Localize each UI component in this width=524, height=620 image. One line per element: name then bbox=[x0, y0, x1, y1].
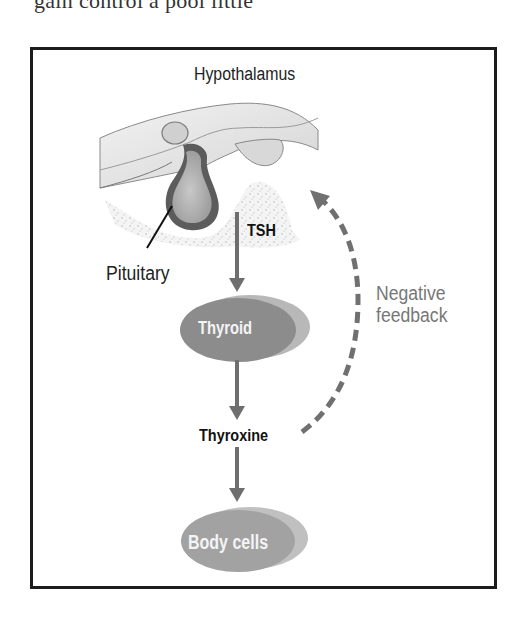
thyroid-to-thyroxine-arrow bbox=[229, 360, 245, 420]
body-cells-label: Body cells bbox=[188, 531, 268, 554]
thyroxine-to-body-cells-arrow bbox=[229, 447, 245, 502]
hypothalamus-label: Hypothalamus bbox=[194, 64, 295, 85]
negative-feedback-line1: Negative bbox=[376, 282, 447, 304]
tsh-label: TSH bbox=[247, 221, 276, 241]
pituitary-label: Pituitary bbox=[106, 262, 170, 285]
negative-feedback-arrow bbox=[302, 190, 358, 432]
negative-feedback-line2: feedback bbox=[376, 304, 447, 326]
thyroid-label: Thyroid bbox=[198, 318, 252, 339]
thyroxine-label: Thyroxine bbox=[199, 426, 268, 446]
negative-feedback-label: Negative feedback bbox=[376, 282, 447, 326]
